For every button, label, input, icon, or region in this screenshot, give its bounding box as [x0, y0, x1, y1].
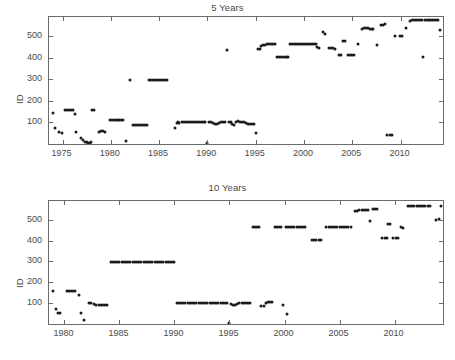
- data-point: [389, 222, 392, 225]
- y-tick-400: [49, 58, 53, 59]
- data-point: [60, 131, 63, 134]
- x-tick-1990: [207, 140, 208, 144]
- data-point: [376, 43, 379, 46]
- data-point: [79, 311, 82, 314]
- y-tick-right-100: [439, 122, 443, 123]
- x-tick-top-1990: [207, 17, 208, 21]
- x-tick-2005: [352, 140, 353, 144]
- x-tick-label-1990: 1990: [196, 148, 216, 158]
- data-point: [271, 301, 274, 304]
- data-point: [51, 112, 54, 115]
- data-point: [369, 220, 372, 223]
- y-tick-right-100: [439, 303, 443, 304]
- y-tick-label-100: 100: [0, 297, 42, 307]
- data-point: [249, 302, 252, 305]
- chart-title-10-years: 10 Years: [0, 182, 455, 193]
- data-point: [357, 42, 360, 45]
- x-tick-1975: [63, 140, 64, 144]
- y-tick-200: [49, 101, 53, 102]
- x-tick-label-2000: 2000: [293, 148, 313, 158]
- x-tick-label-2005: 2005: [341, 148, 361, 158]
- y-tick-100: [49, 122, 53, 123]
- data-point: [375, 207, 378, 210]
- data-point: [90, 141, 93, 144]
- data-point: [402, 226, 405, 229]
- data-point: [258, 47, 261, 50]
- data-point: [59, 312, 62, 315]
- y-tick-label-300: 300: [0, 255, 42, 265]
- data-point: [318, 47, 321, 50]
- data-point: [385, 237, 388, 240]
- x-tick-top-2000: [285, 201, 286, 205]
- data-point: [74, 290, 77, 293]
- x-tick-2000: [304, 140, 305, 144]
- data-point: [304, 226, 307, 229]
- y-tick-label-300: 300: [0, 73, 42, 83]
- x-tick-top-1980: [64, 201, 65, 205]
- x-tick-top-2000: [304, 17, 305, 21]
- x-tick-label-1975: 1975: [52, 148, 72, 158]
- data-point: [258, 226, 261, 229]
- data-point: [280, 226, 283, 229]
- data-point: [439, 28, 442, 31]
- y-tick-right-400: [439, 58, 443, 59]
- data-point: [319, 238, 322, 241]
- x-tick-label-2005: 2005: [329, 328, 349, 338]
- data-point: [349, 226, 352, 229]
- x-tick-top-2005: [340, 201, 341, 205]
- scatter-figure: 5 Years ID 19751980198519901995200020052…: [0, 0, 455, 360]
- x-tick-1995: [229, 320, 230, 324]
- data-point: [104, 131, 107, 134]
- x-tick-top-2010: [401, 17, 402, 21]
- y-tick-right-500: [439, 220, 443, 221]
- data-point: [204, 121, 207, 124]
- data-point: [233, 123, 236, 126]
- data-point: [262, 304, 265, 307]
- chart-panel-5-years: 5 Years ID 19751980198519901995200020052…: [0, 0, 455, 180]
- x-tick-top-1985: [159, 17, 160, 21]
- x-tick-label-1995: 1995: [218, 328, 238, 338]
- data-point: [145, 124, 148, 127]
- data-point: [390, 134, 393, 137]
- x-tick-top-1990: [174, 201, 175, 205]
- data-point: [173, 127, 176, 130]
- y-tick-500: [49, 220, 53, 221]
- y-tick-label-400: 400: [0, 52, 42, 62]
- plot-area-5-years: [48, 16, 444, 145]
- x-tick-top-2010: [395, 201, 396, 205]
- x-tick-1980: [64, 320, 65, 324]
- chart-panel-10-years: 10 Years ID 1980198519901995200020052010…: [0, 180, 455, 360]
- x-tick-top-1995: [229, 201, 230, 205]
- x-tick-1985: [159, 140, 160, 144]
- data-layer-10-years: [49, 201, 443, 324]
- x-tick-1980: [111, 140, 112, 144]
- y-tick-right-300: [439, 79, 443, 80]
- y-tick-label-200: 200: [0, 95, 42, 105]
- y-tick-label-500: 500: [0, 30, 42, 40]
- data-point: [339, 54, 342, 57]
- data-point: [353, 54, 356, 57]
- chart-title-5-years: 5 Years: [0, 2, 455, 13]
- data-point: [282, 304, 285, 307]
- data-point: [72, 109, 75, 112]
- data-point: [165, 78, 168, 81]
- y-tick-300: [49, 261, 53, 262]
- y-tick-label-400: 400: [0, 235, 42, 245]
- x-tick-label-1985: 1985: [148, 148, 168, 158]
- x-tick-2000: [285, 320, 286, 324]
- data-point: [54, 307, 57, 310]
- data-point: [75, 130, 78, 133]
- data-point: [285, 312, 288, 315]
- y-tick-100: [49, 303, 53, 304]
- x-tick-2005: [340, 320, 341, 324]
- x-tick-label-1980: 1980: [100, 148, 120, 158]
- data-point: [122, 118, 125, 121]
- data-point: [83, 318, 86, 321]
- x-tick-label-1995: 1995: [245, 148, 265, 158]
- x-tick-1985: [119, 320, 120, 324]
- data-layer-5-years: [49, 17, 443, 144]
- x-tick-top-1995: [256, 17, 257, 21]
- data-point: [74, 112, 77, 115]
- data-point: [93, 108, 96, 111]
- x-tick-top-1980: [111, 17, 112, 21]
